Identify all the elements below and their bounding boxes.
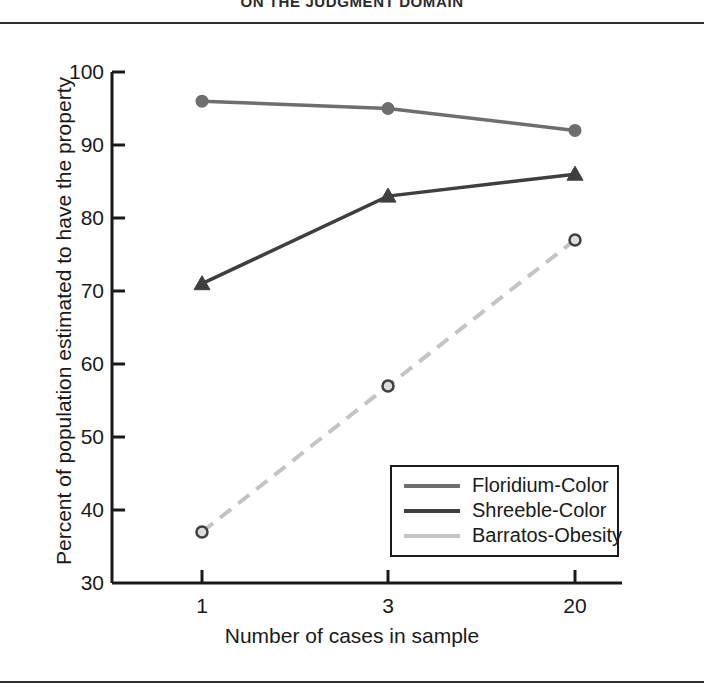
chart-legend: Floridium-ColorShreeble-ColorBarratos-Ob… [390,465,619,557]
legend-label: Shreeble-Color [472,499,607,522]
series-marker-circle [197,96,208,107]
legend-item: Shreeble-Color [392,498,617,523]
series-marker-circle [570,125,581,136]
series-marker-circle [197,526,208,537]
legend-label: Floridium-Color [472,474,609,497]
legend-item: Floridium-Color [392,473,617,498]
chart-figure: Percent of population estimated to have … [0,24,704,680]
series-marker-circle [383,380,394,391]
legend-swatch-icon [404,529,460,543]
legend-item: Barratos-Obesity [392,523,617,548]
legend-swatch-icon [404,504,460,518]
series-marker-circle [570,234,581,245]
legend-label: Barratos-Obesity [472,524,622,547]
plot-area [0,24,704,680]
legend-swatch-icon [404,479,460,493]
page-title: ON THE JUDGMENT DOMAIN [0,0,704,10]
series-marker-circle [383,103,394,114]
footer-divider [0,681,704,683]
